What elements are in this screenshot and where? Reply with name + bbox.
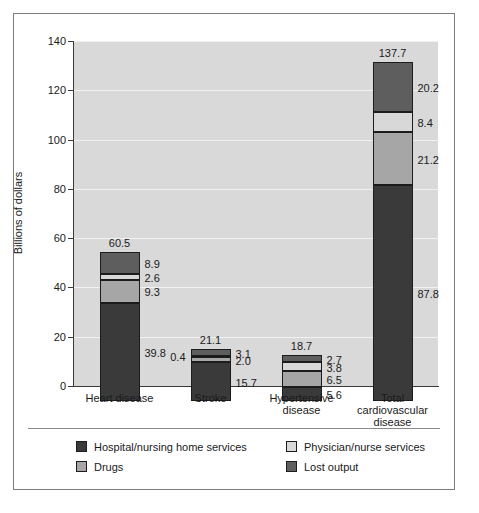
y-axis-tick-label: 80 (54, 183, 66, 195)
legend-label: Lost output (304, 461, 358, 473)
y-axis-tick-label: 40 (54, 281, 66, 293)
bar-segment[interactable]: 6.5 (282, 371, 322, 387)
bar-segment-value-label: 20.2 (418, 82, 439, 94)
bar-segment[interactable]: 20.2 (373, 62, 413, 112)
bar-segment-value-label: 15.7 (236, 377, 257, 389)
bar-segment-value-label: 8.9 (145, 258, 160, 270)
bar-segment[interactable]: 3.1 (191, 349, 231, 357)
legend-item[interactable]: Physician/nurse services (286, 438, 425, 455)
bar-segment-value-label: 3.1 (236, 348, 251, 360)
legend-column: Hospital/nursing home servicesDrugs (76, 438, 247, 478)
bar-total-label: 21.1 (200, 334, 221, 346)
bar-total-label: 60.5 (109, 237, 130, 249)
y-axis-tick (68, 337, 74, 338)
x-axis-tick-label: Total cardiovasculardisease (347, 392, 438, 428)
x-axis-tick-label: Heart disease (74, 392, 165, 404)
x-axis-tick-label-line: Total cardiovascular (347, 392, 438, 416)
x-axis-tick-label-line: Heart disease (74, 392, 165, 404)
legend-column: Physician/nurse servicesLost output (286, 438, 425, 478)
bar-total-label: 137.7 (379, 47, 407, 59)
bar-segment[interactable]: 8.4 (373, 112, 413, 133)
bar-segment-value-label: 21.2 (418, 154, 439, 166)
chart-plot-wrapper: 020406080100120140 Billions of dollars 3… (74, 41, 438, 401)
bar-segment-value-label: 9.3 (145, 286, 160, 298)
bar-segment[interactable]: 2.6 (100, 274, 140, 280)
legend-label: Physician/nurse services (304, 441, 425, 453)
y-axis-tick-label: 0 (60, 380, 66, 392)
y-axis-tick (68, 287, 74, 288)
gridline (74, 41, 438, 42)
bar-segment-value-label: 8.4 (418, 117, 433, 129)
x-axis-tick-label-line: Stroke (165, 392, 256, 404)
y-axis-tick-label: 100 (48, 134, 66, 146)
y-axis-title: Billions of dollars (12, 172, 24, 255)
y-axis-tick-label: 20 (54, 331, 66, 343)
bar-segment[interactable]: 2.0 (191, 357, 231, 362)
bar-segment[interactable]: 39.8 (100, 303, 140, 401)
y-axis-tick-label: 60 (54, 232, 66, 244)
legend-item[interactable]: Drugs (76, 458, 247, 475)
bar-total-label: 18.7 (291, 340, 312, 352)
bar-segment[interactable]: 9.3 (100, 280, 140, 303)
bar-segment-value-label: 2.6 (145, 272, 160, 284)
y-axis-tick (68, 90, 74, 91)
legend-label: Drugs (94, 461, 123, 473)
bar-segment[interactable]: 21.2 (373, 132, 413, 184)
y-axis-line (73, 41, 74, 386)
y-axis-tick (68, 386, 74, 387)
y-axis-tick-label: 140 (48, 35, 66, 47)
legend-swatch-icon (286, 461, 297, 472)
bar-segment[interactable]: 2.7 (282, 355, 322, 362)
legend-label: Hospital/nursing home services (94, 441, 247, 453)
x-axis-tick-label-line: disease (256, 404, 347, 416)
legend-item[interactable]: Lost output (286, 458, 425, 475)
y-axis-tick (68, 41, 74, 42)
figure-frame: 020406080100120140 Billions of dollars 3… (13, 13, 455, 490)
y-axis-tick (68, 189, 74, 190)
legend-item[interactable]: Hospital/nursing home services (76, 438, 247, 455)
x-axis-tick-label: Stroke (165, 392, 256, 404)
y-axis-tick-labels: 020406080100120140 (32, 41, 66, 386)
bar-segment-value-label: 39.8 (145, 347, 166, 359)
x-axis-tick-label-line: disease (347, 416, 438, 428)
bar-group[interactable]: 5.66.53.82.718.7 (282, 56, 322, 401)
bar-segment-value-label: 87.8 (418, 288, 439, 300)
bar-group[interactable]: 87.821.28.420.2137.7 (373, 56, 413, 401)
chart-legend: Hospital/nursing home servicesDrugsPhysi… (28, 428, 440, 476)
bar-segment-value-label: 2.7 (327, 354, 342, 366)
y-axis-tick (68, 140, 74, 141)
bar-segment-value-label: 0.4 (170, 351, 185, 363)
y-axis-tick (68, 238, 74, 239)
x-axis-tick-label: Hypertensivedisease (256, 392, 347, 416)
bar-segment-value-label: 6.5 (327, 374, 342, 386)
legend-swatch-icon (76, 441, 87, 452)
y-axis-tick-label: 120 (48, 84, 66, 96)
bar-group[interactable]: 15.72.00.43.121.1 (191, 56, 231, 401)
bar-segment[interactable]: 87.8 (373, 185, 413, 401)
legend-swatch-icon (286, 441, 297, 452)
bar-segment[interactable]: 8.9 (100, 252, 140, 274)
legend-swatch-icon (76, 461, 87, 472)
x-axis-tick-label-line: Hypertensive (256, 392, 347, 404)
bar-segment[interactable]: 3.8 (282, 362, 322, 371)
bar-group[interactable]: 39.89.32.68.960.5 (100, 56, 140, 401)
